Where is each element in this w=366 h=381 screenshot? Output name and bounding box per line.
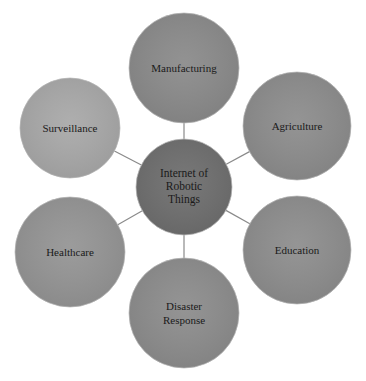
node-label-line: Things xyxy=(168,193,200,206)
node-agriculture: Agriculture xyxy=(243,72,351,180)
node-label-line: Manufacturing xyxy=(151,62,217,74)
node-label-line: Healthcare xyxy=(46,246,94,258)
connector-surveillance xyxy=(114,151,141,165)
node-label-line: Response xyxy=(163,314,205,326)
node-education: Education xyxy=(243,196,351,304)
connector-agriculture xyxy=(226,152,249,165)
node-label-line: Robotic xyxy=(166,180,202,192)
connector-healthcare xyxy=(118,211,143,225)
node-label-line: Agriculture xyxy=(272,120,323,132)
node-label-line: Surveillance xyxy=(43,122,98,134)
node-label-line: Education xyxy=(275,244,320,256)
center-node: Internet ofRoboticThings xyxy=(136,139,232,235)
connector-education xyxy=(226,210,250,223)
node-surveillance: Surveillance xyxy=(20,78,120,178)
node-disaster-response: DisasterResponse xyxy=(129,258,239,368)
node-manufacturing: Manufacturing xyxy=(129,13,239,123)
node-shading xyxy=(129,258,239,368)
node-label-line: Internet of xyxy=(160,167,208,179)
node-healthcare: Healthcare xyxy=(15,197,125,307)
iort-diagram: ManufacturingAgricultureEducationDisaste… xyxy=(0,0,366,381)
node-label-line: Disaster xyxy=(166,300,202,312)
